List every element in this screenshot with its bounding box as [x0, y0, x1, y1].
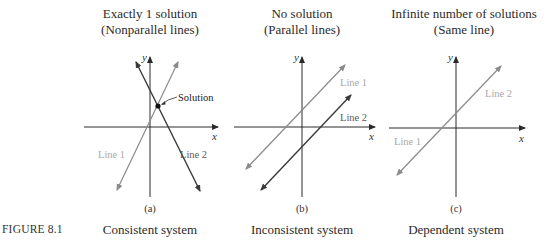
- panel-b-caption: Inconsistent system: [232, 222, 372, 238]
- panel-c-x-label: x: [518, 132, 524, 144]
- solution-label: Solution: [178, 92, 214, 103]
- panel-c-line-1-label: Line 1: [394, 136, 421, 147]
- solution-point-icon: [155, 103, 160, 108]
- panel-c-caption: Dependent system: [386, 222, 526, 238]
- panel-b-line-2: [261, 95, 351, 190]
- panel-a-x-label: x: [211, 130, 217, 142]
- panel-c-graph: y x Line 1 Line 2: [389, 51, 525, 197]
- panel-c-y-label: y: [447, 51, 453, 63]
- panel-a-caption: Consistent system: [80, 222, 220, 238]
- solution-pointer-head-icon: [161, 101, 166, 105]
- panel-a-line-1: [117, 62, 178, 190]
- panel-c-coincident-line: [397, 66, 501, 175]
- panel-a-line-2-label: Line 2: [180, 149, 207, 160]
- panel-a-y-label: y: [141, 51, 147, 63]
- panel-b-line-2-label: Line 2: [340, 112, 367, 123]
- panel-c-sublabel: (c): [436, 203, 476, 214]
- panel-a-line-1-label: Line 1: [98, 149, 125, 160]
- panel-a-graph: Solution y x Line 1 Line 2: [84, 51, 218, 197]
- panel-c-line-2-label: Line 2: [485, 88, 512, 99]
- panel-b-x-label: x: [368, 130, 374, 142]
- panel-b-line-1-label: Line 1: [340, 77, 367, 88]
- panel-a-sublabel: (a): [130, 203, 170, 214]
- panel-b-y-label: y: [293, 51, 299, 63]
- panel-b-sublabel: (b): [282, 203, 322, 214]
- panel-b-graph: y x Line 1 Line 2: [234, 51, 375, 197]
